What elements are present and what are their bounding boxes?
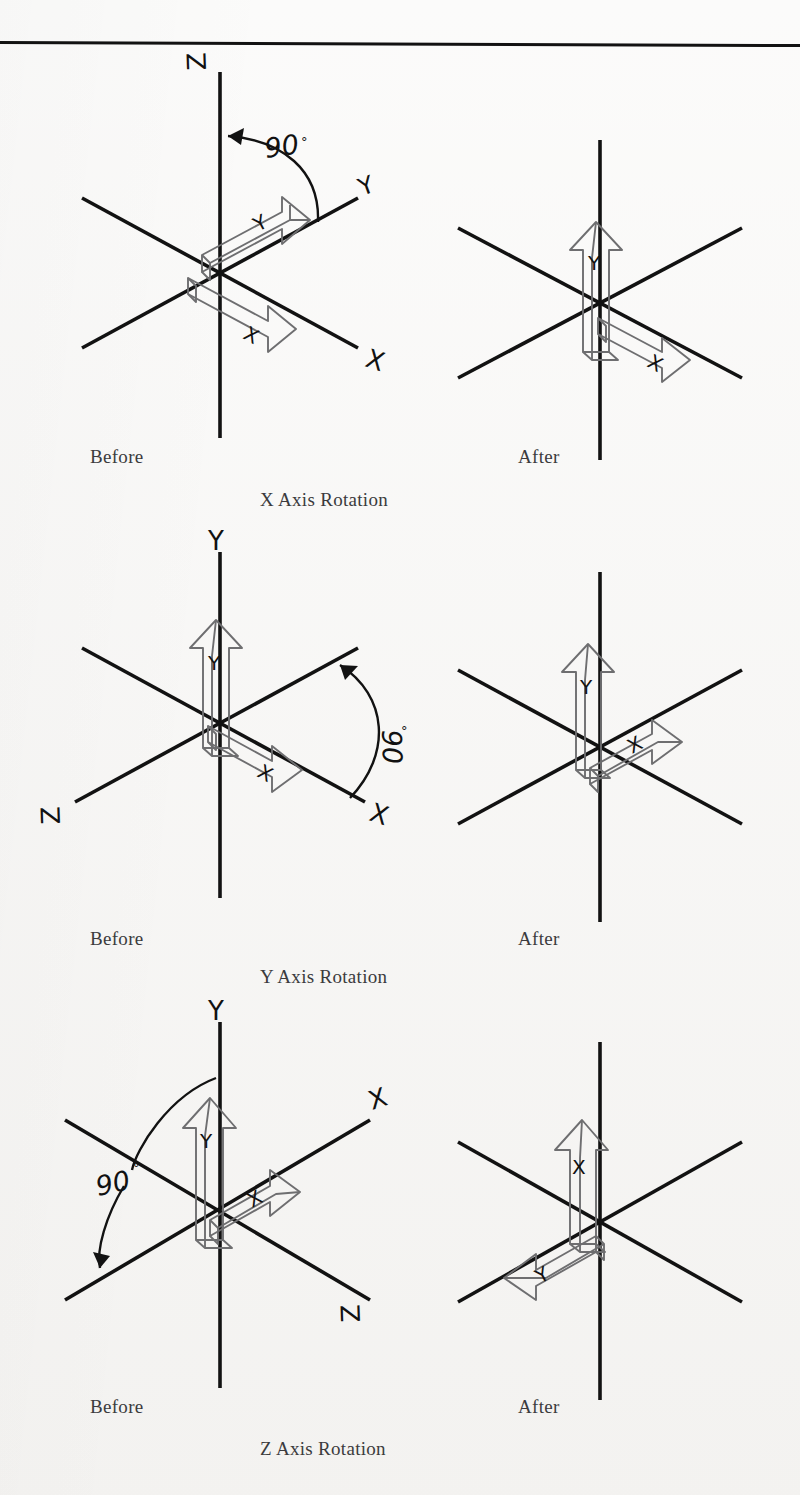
row-x-axis-rotation: 90 ° Y X Z Y X bbox=[0, 50, 800, 520]
angle-degree-symbol: ° bbox=[301, 134, 308, 149]
block-arrow-label-y: Y bbox=[199, 1129, 213, 1153]
caption-title-x: X Axis Rotation bbox=[260, 489, 388, 511]
diagram-before-z: 90 ° Y X Y X Z bbox=[20, 1000, 420, 1400]
caption-after-y: After bbox=[518, 928, 560, 950]
axis-line-x bbox=[82, 648, 365, 802]
axis-label-x: X bbox=[362, 343, 388, 377]
row-z-axis-rotation: 90 ° Y X Y X Z bbox=[0, 1000, 800, 1470]
figure-page: 90 ° Y X Z Y X bbox=[0, 0, 800, 1495]
caption-after-z: After bbox=[518, 1396, 560, 1418]
angle-arrowhead bbox=[228, 128, 244, 145]
angle-arrowhead bbox=[93, 1252, 110, 1268]
diagram-before-y: 90 ° Y X Y Z X bbox=[20, 530, 420, 930]
angle-label-90: 90 bbox=[263, 128, 301, 163]
block-arrow-label-x: X bbox=[644, 349, 668, 377]
axis-label-z: Z bbox=[335, 1304, 366, 1323]
axis-label-y: Y bbox=[207, 530, 224, 556]
block-arrow-y bbox=[562, 644, 614, 778]
diagram-after-x: Y X bbox=[400, 70, 800, 470]
diagram-after-z: X Y bbox=[400, 1022, 800, 1422]
axis-label-z: Z bbox=[35, 806, 66, 825]
block-arrow-label-y: Y bbox=[587, 251, 601, 275]
angle-arc bbox=[340, 665, 379, 798]
angle-label-90: 90 bbox=[93, 1164, 133, 1201]
caption-after-x: After bbox=[518, 446, 560, 468]
block-arrow-label-x: X bbox=[240, 321, 264, 349]
caption-before-z: Before bbox=[90, 1396, 144, 1418]
axis-label-z: Z bbox=[181, 52, 212, 71]
axis-label-x: X bbox=[366, 797, 392, 831]
block-arrow-label-y: Y bbox=[579, 675, 593, 699]
caption-title-y: Y Axis Rotation bbox=[260, 966, 387, 988]
top-horizontal-rule bbox=[0, 41, 800, 47]
block-arrow-x bbox=[208, 726, 302, 792]
block-arrow-label-x: X bbox=[572, 1155, 586, 1179]
caption-title-z: Z Axis Rotation bbox=[260, 1438, 386, 1460]
diagram-before-x: 90 ° Y X Z Y X bbox=[20, 50, 420, 450]
axis-label-y: Y bbox=[207, 1000, 224, 1026]
caption-before-y: Before bbox=[90, 928, 144, 950]
diagram-after-y: Y X bbox=[400, 552, 800, 952]
caption-before-x: Before bbox=[90, 446, 144, 468]
block-arrow-label-y: Y bbox=[207, 651, 221, 675]
block-arrow-label-x: X bbox=[254, 759, 278, 787]
axis-label-x: X bbox=[365, 1082, 391, 1116]
angle-degree-symbol: ° bbox=[133, 1160, 140, 1175]
angle-arc bbox=[132, 1078, 216, 1170]
row-y-axis-rotation: 90 ° Y X Y Z X bbox=[0, 530, 800, 1000]
